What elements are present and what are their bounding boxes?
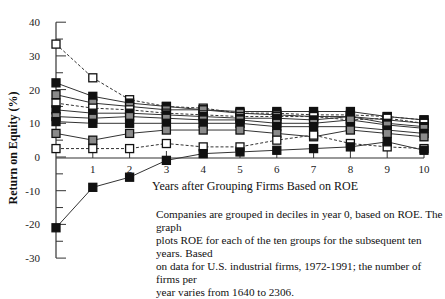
data-point-marker bbox=[383, 138, 391, 146]
data-point-marker bbox=[383, 129, 391, 137]
data-point-marker bbox=[346, 126, 354, 134]
y-tick-label: 0 bbox=[35, 151, 41, 163]
x-tick-label: 10 bbox=[419, 163, 431, 175]
y-tick-label: 10 bbox=[29, 117, 41, 129]
caption-line: year varies from 1640 to 2306. bbox=[156, 286, 445, 299]
data-point-marker bbox=[310, 131, 318, 139]
y-axis-title: Return on Equity (%) bbox=[6, 91, 20, 204]
series-group bbox=[52, 40, 428, 232]
data-point-marker bbox=[199, 126, 207, 134]
x-tick-label: 6 bbox=[274, 163, 280, 175]
data-point-marker bbox=[89, 136, 97, 144]
y-tick-label: 20 bbox=[29, 84, 41, 96]
y-tick-label: -20 bbox=[25, 218, 40, 230]
x-tick-label: 4 bbox=[200, 163, 206, 175]
y-tick-label: -10 bbox=[25, 185, 40, 197]
x-tick-label: 5 bbox=[237, 163, 243, 175]
x-tick-label: 9 bbox=[384, 163, 390, 175]
data-point-marker bbox=[346, 143, 354, 151]
data-point-marker bbox=[52, 40, 60, 48]
data-point-marker bbox=[52, 91, 60, 99]
data-point-marker bbox=[89, 74, 97, 82]
chart-caption: Companies are grouped in deciles in year… bbox=[156, 208, 445, 299]
y-tick-label: 30 bbox=[29, 50, 41, 62]
data-point-marker bbox=[420, 146, 428, 154]
data-point-marker bbox=[162, 126, 170, 134]
caption-line: plots ROE for each of the ten groups for… bbox=[156, 234, 445, 260]
data-point-marker bbox=[126, 129, 134, 137]
data-point-marker bbox=[126, 173, 134, 181]
data-point-marker bbox=[273, 136, 281, 144]
data-point-marker bbox=[89, 183, 97, 191]
caption-line: Companies are grouped in deciles in year… bbox=[156, 208, 445, 234]
data-point-marker bbox=[52, 118, 60, 126]
data-point-marker bbox=[310, 145, 318, 153]
data-point-marker bbox=[310, 123, 318, 131]
y-tick-label: 40 bbox=[29, 16, 41, 28]
data-point-marker bbox=[52, 79, 60, 87]
caption-line: on data for U.S. industrial firms, 1972-… bbox=[156, 260, 445, 286]
data-point-marker bbox=[52, 129, 60, 137]
data-point-marker bbox=[199, 150, 207, 158]
data-point-marker bbox=[126, 119, 134, 127]
data-point-marker bbox=[162, 156, 170, 164]
data-point-marker bbox=[162, 140, 170, 148]
y-tick-label: -30 bbox=[25, 252, 40, 264]
data-point-marker bbox=[236, 126, 244, 134]
data-point-marker bbox=[89, 119, 97, 127]
x-tick-label: 7 bbox=[311, 163, 317, 175]
data-point-marker bbox=[273, 146, 281, 154]
data-point-marker bbox=[236, 148, 244, 156]
data-point-marker bbox=[89, 145, 97, 153]
data-point-marker bbox=[52, 145, 60, 153]
x-axis-title: Years after Grouping Firms Based on ROE bbox=[152, 179, 358, 193]
data-point-marker bbox=[420, 133, 428, 141]
x-tick-label: 1 bbox=[90, 163, 96, 175]
data-point-marker bbox=[52, 224, 60, 232]
x-tick-label: 8 bbox=[348, 163, 354, 175]
data-point-marker bbox=[126, 145, 134, 153]
